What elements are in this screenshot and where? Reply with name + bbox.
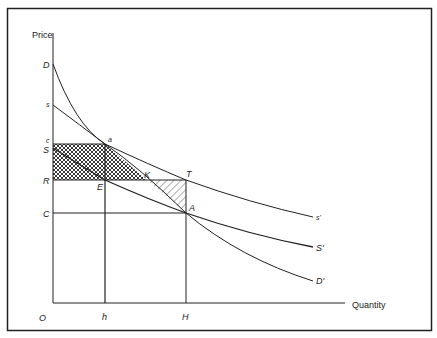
label-s-prime: s'	[316, 214, 322, 221]
label-s: s	[46, 101, 50, 108]
label-c: c	[46, 137, 50, 144]
label-S-prime: S'	[316, 243, 324, 253]
label-H: H	[182, 312, 189, 322]
x-axis-label: Quantity	[352, 300, 386, 310]
label-D-prime: D'	[316, 276, 324, 286]
point-K: K	[144, 170, 151, 180]
label-D: D	[43, 60, 50, 70]
y-axis-label: Price	[32, 30, 53, 40]
point-a: a	[108, 136, 112, 143]
supply-demand-diagram: Price Quantity O D s c S R C h H a E K T…	[0, 0, 437, 338]
label-C: C	[43, 209, 50, 219]
point-A: A	[188, 203, 195, 213]
point-T: T	[186, 169, 193, 179]
label-R: R	[43, 176, 50, 186]
hatched-triangle	[147, 180, 186, 213]
point-E: E	[97, 182, 104, 192]
cross-hatched-area	[53, 144, 147, 180]
origin-label: O	[39, 313, 46, 323]
label-h: h	[102, 312, 107, 322]
label-S: S	[43, 145, 49, 155]
